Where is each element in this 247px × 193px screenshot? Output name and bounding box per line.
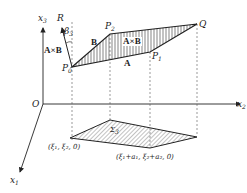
vector-B-label: B bbox=[91, 38, 97, 47]
point-P0-label: P0 bbox=[62, 64, 72, 75]
vector-A-label: A bbox=[124, 59, 131, 68]
projected-region bbox=[70, 120, 197, 148]
angle-beta-label: β3 bbox=[64, 27, 73, 38]
vector-AxB-left-label: A×B bbox=[44, 46, 62, 55]
x3-axis-label: x3 bbox=[38, 14, 47, 25]
point-R-label: R bbox=[57, 14, 64, 23]
origin-label: O bbox=[32, 100, 39, 109]
projected-region-label: Σ3 bbox=[110, 126, 119, 136]
corner-label-1: (ξ₁, ξ₂, 0) bbox=[48, 143, 80, 152]
x2-axis-label: x2 bbox=[237, 100, 246, 111]
diagram-canvas bbox=[0, 0, 247, 193]
angle-arc bbox=[66, 42, 72, 43]
vector-AxB-center-label: A×B bbox=[122, 37, 142, 46]
point-P1-label: P1 bbox=[152, 52, 162, 63]
corner-label-2: (ξ₁+a₁, ξ₂+a₂, 0) bbox=[116, 153, 174, 162]
x1-axis bbox=[20, 104, 43, 172]
x1-axis-label: x1 bbox=[10, 176, 19, 187]
point-P2-label: P2 bbox=[105, 22, 115, 33]
point-Q-label: Q bbox=[199, 20, 206, 29]
